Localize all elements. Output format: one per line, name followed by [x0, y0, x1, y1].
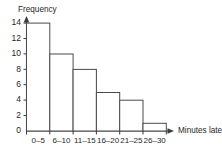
chart-canvas: Frequency Minutes late 14 12 10 [0, 0, 222, 154]
x-tick-label: 0–5 [32, 136, 46, 145]
x-tick-label: 6–10 [53, 136, 71, 145]
x-tick-label: 26–30 [144, 136, 167, 145]
x-tick-labels: 0–5 6–10 11–15 16–20 21–25 26–30 [32, 136, 167, 145]
y-tick-label: 0 [16, 125, 21, 135]
y-tick-label: 10 [12, 48, 22, 58]
y-tick-label: 14 [12, 17, 22, 27]
y-tick-labels: 14 12 10 8 6 4 2 0 [12, 17, 22, 135]
histogram-bar [143, 123, 166, 131]
x-tick-label: 11–15 [74, 136, 96, 145]
y-tick-label: 8 [16, 64, 21, 74]
histogram-bar [120, 100, 143, 131]
y-tick-label: 4 [16, 94, 21, 104]
y-axis-title: Frequency [18, 5, 58, 14]
histogram-bar [73, 69, 96, 131]
y-tick-label: 12 [12, 33, 22, 43]
histogram-bar [50, 54, 73, 131]
histogram-bar [96, 93, 119, 132]
x-tick-label: 16–20 [97, 136, 120, 145]
y-tick-label: 6 [16, 79, 21, 89]
x-axis-arrow-icon [168, 128, 175, 134]
x-tick-label: 21–25 [120, 136, 143, 145]
x-axis-title: Minutes late [178, 126, 222, 135]
y-axis-arrow-icon [24, 16, 30, 23]
histogram-chart: Frequency Minutes late 14 12 10 [0, 0, 222, 154]
y-tick-label: 2 [16, 110, 21, 120]
bars-group [27, 23, 167, 131]
histogram-bar [27, 23, 50, 131]
